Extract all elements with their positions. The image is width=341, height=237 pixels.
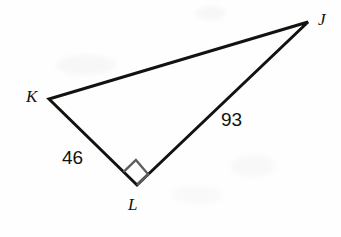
figure-canvas: J K L 46 93 <box>0 0 341 237</box>
vertex-label-j: J <box>318 11 326 28</box>
vertex-label-k: K <box>26 88 37 105</box>
right-angle-marker <box>124 160 149 185</box>
triangle-figure <box>0 0 341 237</box>
triangle-outline <box>49 22 308 185</box>
vertex-label-l: L <box>128 196 137 213</box>
side-label-lj: 93 <box>221 110 242 129</box>
side-label-kl: 46 <box>62 148 83 167</box>
